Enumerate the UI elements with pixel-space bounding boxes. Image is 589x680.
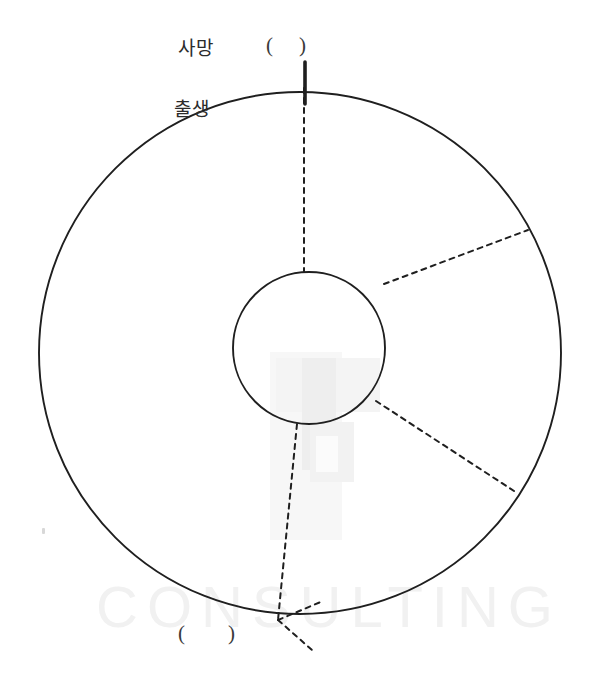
spoke-bottom bbox=[278, 424, 297, 620]
diagram-canvas: CONSULTING 사망 출생 ( ) ( ) bbox=[0, 0, 589, 680]
spoke-bottom-branch-up bbox=[278, 601, 323, 620]
bottom-paren-open: ( bbox=[178, 621, 185, 646]
top-paren-open: ( bbox=[266, 33, 273, 58]
top-paren-close: ) bbox=[299, 33, 306, 58]
spoke-upper-right bbox=[384, 230, 528, 284]
spoke-lower-right bbox=[376, 401, 514, 491]
outer-circle bbox=[39, 92, 561, 614]
spoke-bottom-branch-down bbox=[278, 620, 312, 650]
circular-lifecycle-diagram bbox=[0, 0, 589, 680]
bottom-paren-close: ) bbox=[228, 621, 235, 646]
label-death: 사망 bbox=[178, 33, 214, 60]
label-birth: 출생 bbox=[174, 94, 210, 121]
inner-circle bbox=[233, 272, 385, 424]
